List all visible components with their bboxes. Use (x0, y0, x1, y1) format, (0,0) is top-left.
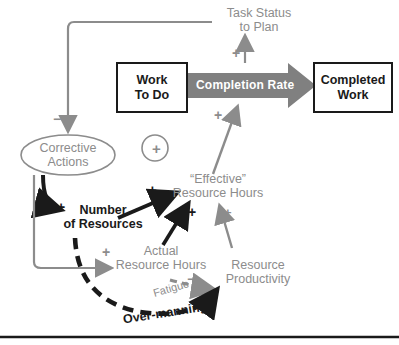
number-resources-line2: of Resources (51, 217, 155, 231)
effective-line1: “Effective” (169, 172, 267, 186)
sign-over-manning-minus: − (206, 299, 214, 313)
completed-work-line2: Work (321, 88, 386, 102)
node-completion-rate: Completion Rate (196, 78, 294, 92)
sign-fatigue-minus: − (187, 272, 195, 286)
node-actual-resource-hours: Actual Resource Hours (110, 244, 212, 272)
sign-corrective-minus: − (53, 112, 61, 126)
actual-line2: Resource Hours (110, 258, 212, 272)
node-completed-work: Completed Work (313, 62, 393, 113)
node-resource-productivity: Resource Productivity (212, 258, 304, 286)
effective-line2: Resource Hours (169, 186, 267, 200)
actual-line1: Actual (110, 244, 212, 258)
corrective-line1: Corrective (20, 141, 116, 155)
loop-marker-plus: + (152, 141, 161, 156)
sign-effective-from-productivity-plus: + (224, 206, 232, 219)
completed-work-line1: Completed (321, 73, 386, 87)
productivity-line1: Resource (212, 258, 304, 272)
number-resources-line1: Number (51, 203, 155, 217)
corrective-line2: Actions (20, 155, 116, 169)
node-effective-resource-hours: “Effective” Resource Hours (169, 172, 267, 200)
sign-effective-from-number-plus: + (148, 182, 157, 197)
node-corrective-actions: Corrective Actions (20, 141, 116, 169)
causal-loop-diagram: Task Status to Plan Work To Do Completio… (0, 0, 399, 345)
node-work-to-do: Work To Do (116, 62, 188, 113)
sign-number-of-resources-plus: + (57, 200, 65, 214)
sign-effective-from-actual-plus: + (188, 205, 196, 219)
work-to-do-line2: To Do (135, 88, 169, 102)
sign-completion-from-effective-plus: + (214, 108, 222, 122)
productivity-line2: Productivity (212, 272, 304, 286)
sign-actual-from-corrective-plus: + (102, 245, 110, 259)
link-actual-hours-to-effective-hours (163, 206, 187, 245)
node-number-of-resources: Number of Resources (51, 203, 155, 231)
work-to-do-line1: Work (135, 73, 169, 87)
sign-task-status-plus: + (232, 46, 240, 60)
node-task-status-to-plan: Task Status to Plan (214, 6, 304, 34)
